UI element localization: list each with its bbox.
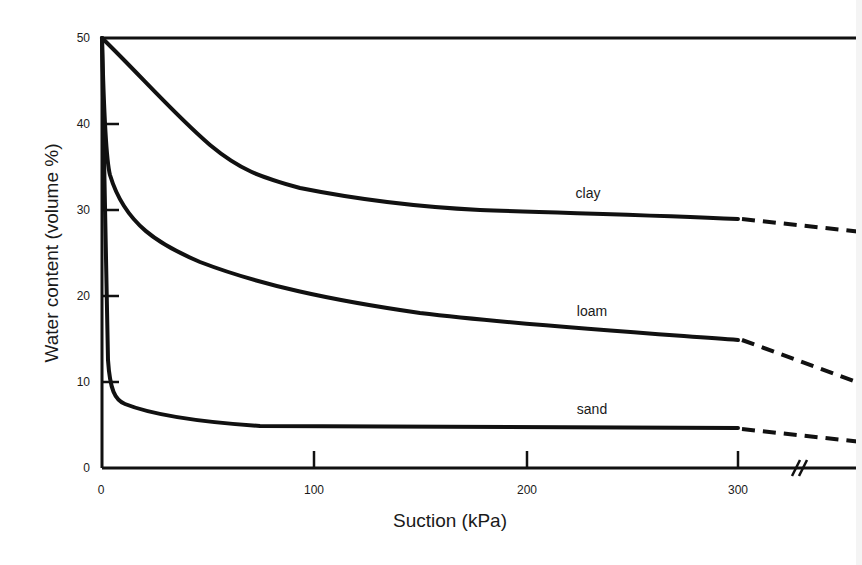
cropped-edge <box>856 0 862 565</box>
soil-water-retention-chart: 50 40 30 20 10 0 0 100 200 300 1 Suction… <box>0 0 862 565</box>
x-tick-label: 0 <box>98 483 105 497</box>
loam-curve-extrapolated <box>742 340 862 384</box>
loam-label: loam <box>577 303 607 319</box>
y-tick-labels: 50 40 30 20 10 0 <box>77 31 91 475</box>
sand-label: sand <box>577 401 607 417</box>
x-axis-title: Suction (kPa) <box>393 510 507 531</box>
y-axis-title: Water content (volume %) <box>41 144 62 363</box>
x-tick-labels: 0 100 200 300 1 <box>98 483 862 497</box>
x-tick-label: 100 <box>304 483 324 497</box>
sand-curve <box>102 38 738 428</box>
y-tick-label: 20 <box>77 289 91 303</box>
clay-curve-extrapolated <box>742 219 862 232</box>
loam-curve <box>102 38 738 340</box>
series-sand: sand <box>102 38 862 442</box>
y-tick-label: 10 <box>77 375 91 389</box>
clay-curve <box>102 38 738 219</box>
y-tick-label: 40 <box>77 117 91 131</box>
y-tick-label: 30 <box>77 203 91 217</box>
clay-label: clay <box>576 185 601 201</box>
sand-curve-extrapolated <box>742 429 862 442</box>
series-clay: clay <box>102 38 862 232</box>
x-ticks <box>314 451 738 468</box>
y-tick-label: 50 <box>77 31 91 45</box>
x-tick-label: 300 <box>728 483 748 497</box>
y-tick-label: 0 <box>83 461 90 475</box>
axes <box>102 38 862 476</box>
x-tick-label: 200 <box>517 483 537 497</box>
